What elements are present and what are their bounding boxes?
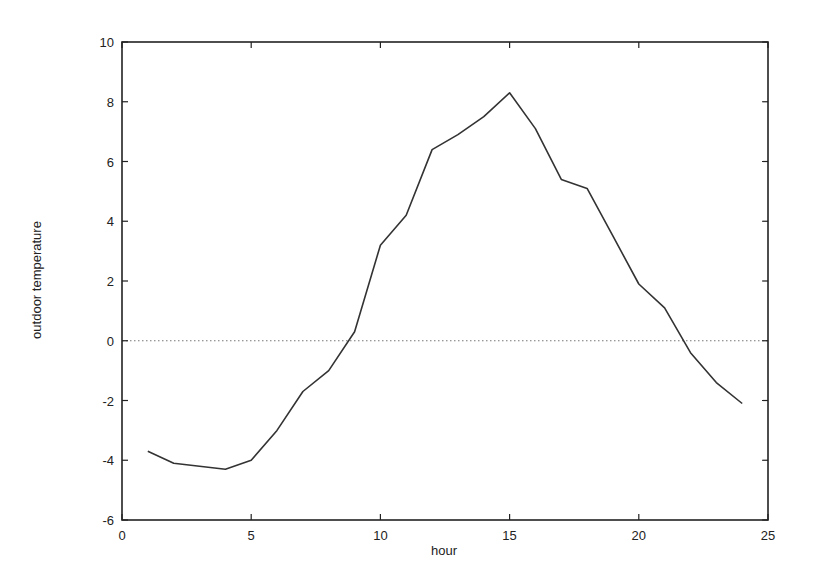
y-tick-label: 4: [107, 214, 114, 229]
y-tick-label: 10: [100, 35, 114, 50]
y-tick-label: 6: [107, 155, 114, 170]
plot-frame: [122, 42, 768, 520]
y-tick-label: 8: [107, 95, 114, 110]
series-line: [148, 93, 742, 469]
y-tick-label: -4: [102, 453, 114, 468]
y-axis-ticks: -6-4-20246810: [100, 35, 768, 528]
x-tick-label: 10: [373, 528, 387, 543]
y-axis-label: outdoor temperature: [29, 221, 44, 339]
y-tick-label: 0: [107, 334, 114, 349]
x-tick-label: 0: [118, 528, 125, 543]
temperature-series: [148, 93, 742, 469]
x-axis-label: hour: [431, 543, 458, 558]
y-tick-label: -2: [102, 394, 114, 409]
x-tick-label: 15: [502, 528, 516, 543]
x-tick-label: 20: [632, 528, 646, 543]
line-chart: 0510152025 -6-4-20246810 hour outdoor te…: [0, 0, 816, 583]
x-tick-label: 5: [248, 528, 255, 543]
y-tick-label: -6: [102, 513, 114, 528]
y-tick-label: 2: [107, 274, 114, 289]
x-tick-label: 25: [761, 528, 775, 543]
